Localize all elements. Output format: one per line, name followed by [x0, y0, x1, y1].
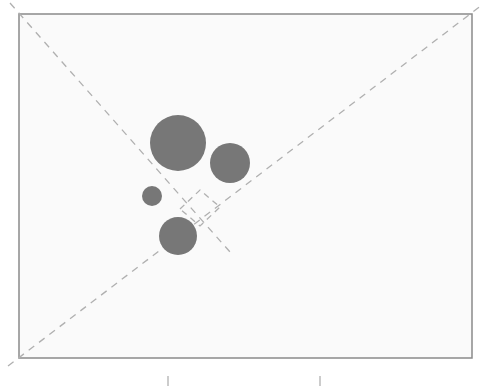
plot-frame [19, 14, 472, 358]
right-circle [210, 143, 250, 183]
bottom-circle [159, 217, 197, 255]
large-circle [150, 115, 206, 171]
diagram-canvas [0, 0, 489, 388]
small-circle [142, 186, 162, 206]
